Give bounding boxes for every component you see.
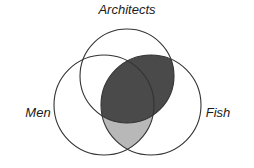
label-architects: Architects (97, 2, 156, 17)
label-men: Men (25, 105, 50, 120)
label-fish: Fish (206, 105, 231, 120)
venn-diagram-figure: Architects Men Fish (0, 0, 254, 168)
venn-diagram-canvas: Architects Men Fish (0, 0, 254, 168)
